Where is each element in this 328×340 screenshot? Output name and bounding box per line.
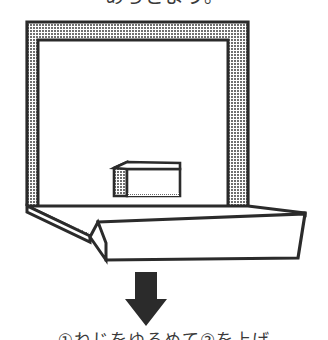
down-arrow (125, 272, 167, 326)
down-arrow-shape (125, 272, 167, 326)
upright-frame (27, 22, 305, 242)
caption-bottom: ①ねじをゆるめて②を上げ (0, 328, 328, 340)
small-box-top-face (114, 162, 180, 169)
small-box (114, 162, 180, 196)
small-box-front-face (127, 169, 180, 196)
frame-left-stile-shade (27, 22, 38, 206)
base-platform (90, 213, 305, 260)
frame-right-stile-shade (228, 22, 248, 206)
small-box-bottom-shade (128, 193, 179, 196)
base-front-face (98, 214, 305, 260)
figure-line-art (0, 0, 328, 340)
frame-top-rail-shade (27, 22, 248, 40)
diagram-page: あらどよう。 (0, 0, 328, 340)
